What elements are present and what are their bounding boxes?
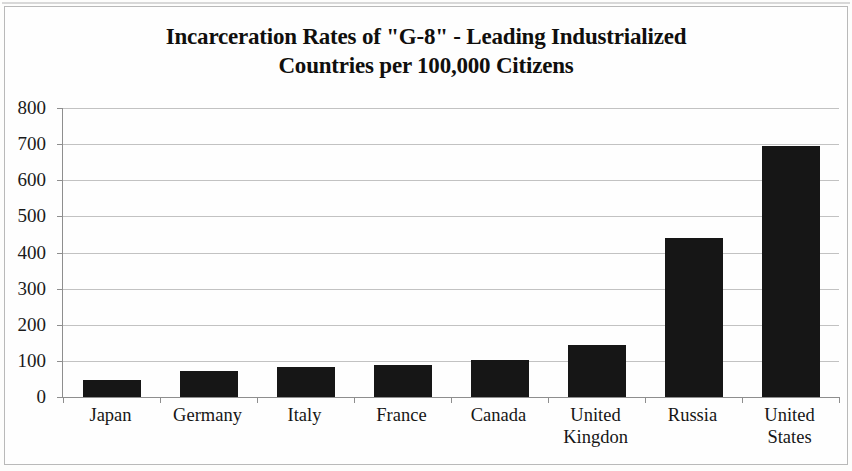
y-tick-800 xyxy=(57,108,63,109)
bar-germany xyxy=(180,371,238,397)
y-axis-label-0: 0 xyxy=(0,387,46,406)
x-axis-label-russia: Russia xyxy=(644,404,741,426)
y-axis-label-300: 300 xyxy=(0,279,46,298)
x-axis-label-japan: Japan xyxy=(62,404,159,426)
x-tick-6 xyxy=(645,397,646,403)
x-tick-8 xyxy=(839,397,840,403)
bar-united-kingdon xyxy=(568,345,626,397)
y-tick-100 xyxy=(57,361,63,362)
gridline-500 xyxy=(63,216,839,217)
y-axis-label-700: 700 xyxy=(0,134,46,153)
gridline-600 xyxy=(63,180,839,181)
bar-united-states xyxy=(762,146,820,397)
x-tick-0 xyxy=(63,397,64,403)
gridline-400 xyxy=(63,253,839,254)
x-axis-label-france: France xyxy=(353,404,450,426)
y-axis-label-100: 100 xyxy=(0,351,46,370)
chart-title-line-1: Incarceration Rates of "G-8" - Leading I… xyxy=(30,22,822,51)
chart-page: Incarceration Rates of "G-8" - Leading I… xyxy=(0,0,852,471)
x-axis-label-united-kingdon: United Kingdon xyxy=(547,404,644,448)
plot-area xyxy=(62,108,839,398)
x-tick-1 xyxy=(160,397,161,403)
x-tick-4 xyxy=(451,397,452,403)
x-tick-5 xyxy=(548,397,549,403)
gridline-300 xyxy=(63,289,839,290)
y-tick-300 xyxy=(57,289,63,290)
bar-russia xyxy=(665,238,723,397)
chart-title: Incarceration Rates of "G-8" - Leading I… xyxy=(30,22,822,80)
y-tick-400 xyxy=(57,253,63,254)
bar-canada xyxy=(471,360,529,397)
x-axis-label-united-states: United States xyxy=(741,404,838,448)
gridline-800 xyxy=(63,108,839,109)
y-tick-700 xyxy=(57,144,63,145)
gridline-200 xyxy=(63,325,839,326)
y-tick-600 xyxy=(57,180,63,181)
x-tick-3 xyxy=(354,397,355,403)
y-tick-500 xyxy=(57,216,63,217)
y-axis-label-600: 600 xyxy=(0,170,46,189)
chart-title-line-2: Countries per 100,000 Citizens xyxy=(30,51,822,80)
y-axis-label-800: 800 xyxy=(0,98,46,117)
bar-italy xyxy=(277,367,335,397)
y-tick-200 xyxy=(57,325,63,326)
y-axis-label-500: 500 xyxy=(0,206,46,225)
x-axis-label-canada: Canada xyxy=(450,404,547,426)
x-axis-label-germany: Germany xyxy=(159,404,256,426)
x-tick-7 xyxy=(742,397,743,403)
gridline-100 xyxy=(63,361,839,362)
x-tick-2 xyxy=(257,397,258,403)
bar-france xyxy=(374,365,432,397)
bar-japan xyxy=(83,380,141,397)
y-axis-label-400: 400 xyxy=(0,243,46,262)
y-axis-label-200: 200 xyxy=(0,315,46,334)
x-axis-label-italy: Italy xyxy=(256,404,353,426)
gridline-700 xyxy=(63,144,839,145)
